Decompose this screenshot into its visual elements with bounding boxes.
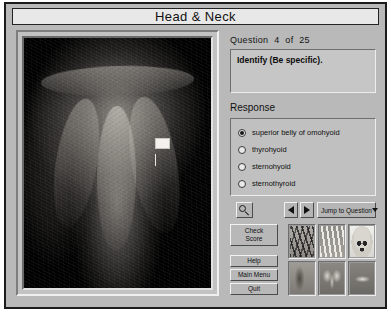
thumbnail-trunk[interactable]: [288, 261, 316, 296]
thumbnail-art-vessels: [290, 226, 314, 257]
thumbnail-hand-bones[interactable]: [318, 224, 346, 259]
response-option-3[interactable]: sternohyoid: [235, 158, 371, 175]
thumbnail-art-hand-bones: [320, 226, 344, 257]
magnifier-icon: [239, 205, 250, 216]
action-button-column: Check Score Help Main Menu Quit: [230, 224, 282, 295]
radio-icon-3[interactable]: [238, 163, 246, 171]
response-options-box: superior belly of omohyoid thyrohyoid st…: [230, 118, 376, 196]
thumbnail-art-skull: [350, 226, 374, 257]
radio-icon-2[interactable]: [238, 146, 246, 154]
caret-down-icon: [372, 208, 378, 212]
response-option-4[interactable]: sternothyroid: [235, 175, 371, 192]
next-question-button[interactable]: [300, 202, 314, 218]
quit-button[interactable]: Quit: [230, 283, 278, 295]
check-score-button[interactable]: Check Score: [230, 224, 278, 246]
window-title: Head & Neck: [155, 9, 236, 24]
specimen-marker-stem: [155, 154, 156, 166]
window-body: Question 4 of 25 Identify (Be specific).…: [10, 28, 381, 305]
jump-to-question-dropdown[interactable]: Jump to Question: [317, 202, 376, 218]
question-counter-of: of: [285, 35, 293, 45]
thumbnail-art-specimen-horizontal: [350, 263, 374, 294]
specimen-image-frame: [22, 36, 213, 290]
thumbnail-specimen-horizontal[interactable]: [348, 261, 376, 296]
question-counter: Question 4 of 25: [230, 35, 313, 45]
response-option-label-3: sternohyoid: [252, 162, 291, 171]
jump-to-question-label: Jump to Question: [321, 207, 372, 214]
question-total-number: 25: [299, 35, 310, 45]
triangle-left-icon: [288, 206, 294, 214]
specimen-image-panel[interactable]: [16, 30, 219, 296]
response-option-2[interactable]: thyrohyoid: [235, 141, 371, 158]
question-counter-prefix: Question: [230, 35, 268, 45]
response-option-1[interactable]: superior belly of omohyoid: [235, 124, 371, 141]
title-bar: Head & Neck: [12, 8, 379, 25]
question-prompt-text: Identify (Be specific).: [237, 55, 369, 65]
question-current-number: 4: [274, 35, 279, 45]
response-option-label-2: thyrohyoid: [252, 145, 287, 154]
triangle-right-icon: [304, 206, 310, 214]
thumbnail-art-trunk: [290, 263, 314, 294]
help-button[interactable]: Help: [230, 255, 278, 267]
thumbnail-vessels-and-nerves[interactable]: [288, 224, 316, 259]
radio-icon-1[interactable]: [238, 129, 246, 137]
photo-grain-overlay: [24, 38, 211, 288]
specimen-photo: [24, 38, 211, 288]
previous-question-button[interactable]: [284, 202, 298, 218]
question-prompt-box: Identify (Be specific).: [230, 49, 376, 93]
application-window: Head & Neck Question 4 of: [4, 2, 387, 309]
response-section-label: Response: [230, 102, 275, 113]
specimen-marker-flag: [155, 138, 170, 149]
thumbnail-art-specimen-wing: [320, 263, 344, 294]
thumbnail-grid: [288, 224, 376, 296]
thumbnail-skull[interactable]: [348, 224, 376, 259]
response-option-label-4: sternothyroid: [252, 179, 295, 188]
radio-icon-4[interactable]: [238, 180, 246, 188]
navigation-row: Jump to Question: [230, 202, 376, 219]
response-option-label-1: superior belly of omohyoid: [252, 128, 340, 137]
thumbnail-specimen-wing[interactable]: [318, 261, 346, 296]
main-menu-button[interactable]: Main Menu: [230, 269, 278, 281]
right-panel: Question 4 of 25 Identify (Be specific).…: [228, 30, 378, 296]
zoom-tool-button[interactable]: [236, 202, 253, 218]
